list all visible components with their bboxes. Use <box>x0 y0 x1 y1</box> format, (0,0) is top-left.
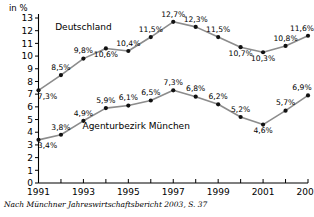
data-point-label: 12,7% <box>161 10 185 19</box>
x-axis-tick-label: 2003 <box>297 187 314 197</box>
y-axis-tick-label: 7 <box>27 89 33 99</box>
data-point-label: 6,8% <box>186 84 205 93</box>
data-point-label: 12,3% <box>184 15 208 24</box>
chart-source-caption: Nach Münchner Jahreswirtschaftsbericht 2… <box>4 200 207 209</box>
data-point-label: 9,8% <box>74 46 93 55</box>
x-axis-tick-label: 1991 <box>27 187 50 197</box>
data-point-label: 4,6% <box>253 126 272 135</box>
chart-canvas: in %012345678910111213199119931995199719… <box>0 0 314 217</box>
data-point-label: 3,8% <box>51 123 70 132</box>
data-point-label: 10,8% <box>273 34 297 43</box>
data-point <box>171 20 175 24</box>
x-axis-tick-label: 1995 <box>117 187 140 197</box>
data-point <box>216 35 220 39</box>
y-axis-tick-label: 12 <box>22 26 33 36</box>
y-axis-tick-label: 5 <box>27 115 33 125</box>
data-point <box>149 35 153 39</box>
data-point <box>104 106 108 110</box>
unemployment-line-chart: in %012345678910111213199119931995199719… <box>0 0 314 217</box>
data-point-label: 10,4% <box>116 39 140 48</box>
data-point-label: 6,5% <box>141 88 160 97</box>
y-axis-tick-label: 2 <box>27 153 33 163</box>
series-annotation-1: Agenturbezirk München <box>83 121 190 131</box>
data-point-label: 10,3% <box>251 54 275 63</box>
data-point <box>239 115 243 119</box>
y-axis-tick-label: 8 <box>27 77 33 87</box>
data-point <box>126 49 130 53</box>
data-point-label: 11,6% <box>290 24 314 33</box>
data-point-label: 7,3% <box>164 78 183 87</box>
data-point <box>306 34 310 38</box>
y-axis-tick-label: 4 <box>27 127 33 137</box>
data-point-label: 5,7% <box>276 98 295 107</box>
data-point-label: 6,9% <box>292 83 311 92</box>
data-point-label: 11,5% <box>139 25 163 34</box>
y-axis-tick-label: 9 <box>27 64 33 74</box>
data-point <box>194 95 198 99</box>
data-point-label: 5,2% <box>231 105 250 114</box>
x-axis-tick-label: 1999 <box>207 187 230 197</box>
y-axis-unit-label: in % <box>9 3 28 13</box>
data-point-label: 3,4% <box>38 141 57 150</box>
data-point <box>81 57 85 61</box>
data-point-label: 6,2% <box>209 92 228 101</box>
data-point-label: 11,5% <box>206 25 230 34</box>
x-axis-tick-label: 2001 <box>252 187 275 197</box>
data-point-label: 6,1% <box>119 93 138 102</box>
y-axis-tick-label: 11 <box>22 39 33 49</box>
data-point <box>283 109 287 113</box>
data-point <box>59 73 63 77</box>
y-axis-tick-label: 6 <box>27 102 33 112</box>
x-axis-tick-label: 1993 <box>72 187 95 197</box>
series-annotation-0: Deutschland <box>55 22 111 32</box>
data-point-label: 4,9% <box>74 109 93 118</box>
y-axis-tick-label: 10 <box>22 51 34 61</box>
data-point-label: 10,6% <box>94 50 118 59</box>
data-point <box>126 103 130 107</box>
y-axis-tick-label: 1 <box>27 166 33 176</box>
data-point <box>59 133 63 137</box>
y-axis-tick-label: 13 <box>22 13 33 23</box>
data-point <box>171 88 175 92</box>
y-axis-tick-label: 3 <box>27 140 33 150</box>
x-axis-tick-label: 1997 <box>162 187 185 197</box>
data-point <box>306 93 310 97</box>
data-point-label: 10,7% <box>229 49 253 58</box>
data-point-label: 7,3% <box>38 92 57 101</box>
data-point <box>283 44 287 48</box>
data-point-label: 5,9% <box>96 96 115 105</box>
data-point <box>216 102 220 106</box>
data-point <box>194 25 198 29</box>
data-point-label: 8,5% <box>51 63 70 72</box>
data-point <box>149 98 153 102</box>
